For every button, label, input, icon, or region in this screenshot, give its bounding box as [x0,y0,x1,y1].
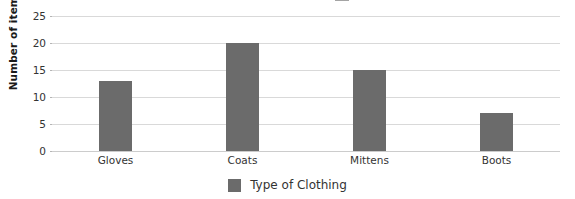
y-axis-tick-label: 15 [6,65,46,76]
cropped-chart-title [335,0,349,1]
bar-coats[interactable] [226,43,259,151]
y-axis-tick-label: 5 [6,119,46,130]
x-axis-category-labels: GlovesCoatsMittensBoots [52,153,560,169]
y-axis-tick-label: 25 [6,11,46,22]
legend-swatch-icon [228,179,241,192]
chart-legend: Type of Clothing [0,175,575,195]
gridline [52,151,560,152]
bar-chart: Number of items 0510152025 GlovesCoatsMi… [0,0,575,199]
bar-gloves[interactable] [99,81,132,151]
x-axis-label-boots: Boots [442,153,552,167]
legend-label: Type of Clothing [250,179,347,191]
gridline [52,43,560,44]
bar-boots[interactable] [480,113,513,151]
x-axis-label-gloves: Gloves [61,153,171,167]
plot-area [52,16,560,151]
gridline [52,16,560,17]
y-axis-tick-label: 10 [6,92,46,103]
gridline [52,70,560,71]
x-axis-label-mittens: Mittens [315,153,425,167]
y-axis-tick-labels: 0510152025 [4,16,46,151]
y-axis-tick-label: 20 [6,38,46,49]
x-axis-label-coats: Coats [188,153,298,167]
bar-mittens[interactable] [353,70,386,151]
y-axis-tick-label: 0 [6,146,46,157]
